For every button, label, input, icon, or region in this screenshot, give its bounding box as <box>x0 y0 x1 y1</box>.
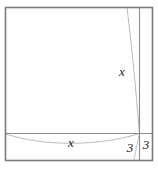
label-3-bottom-strip: 3 <box>126 140 134 155</box>
label-x-horizontal: x <box>67 135 74 150</box>
geometry-figure-container: xx33 <box>0 0 158 171</box>
label-3-right-strip: 3 <box>142 137 150 152</box>
label-x-vertical: x <box>118 64 125 79</box>
geometry-figure-svg: xx33 <box>0 0 158 171</box>
figure-background <box>0 0 158 171</box>
